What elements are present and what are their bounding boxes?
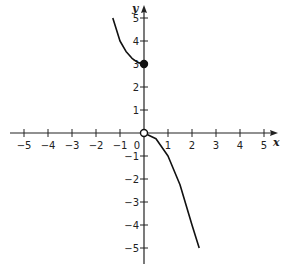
function-graph: −5−4−3−2−1012345−5−4−3−2−112345 x y bbox=[0, 0, 281, 275]
x-tick-label: 0 bbox=[134, 140, 140, 151]
y-axis-arrow-icon bbox=[141, 5, 147, 13]
x-tick-label: 3 bbox=[213, 140, 219, 151]
x-tick-label: −3 bbox=[65, 140, 80, 151]
y-tick-label: −5 bbox=[124, 243, 139, 254]
x-tick-label: 5 bbox=[261, 140, 267, 151]
y-tick-label: −3 bbox=[124, 197, 139, 208]
x-tick-label: −5 bbox=[17, 140, 32, 151]
y-tick-label: 4 bbox=[133, 36, 139, 47]
y-tick-label: 1 bbox=[133, 105, 139, 116]
left-branch-curve bbox=[113, 18, 144, 64]
x-tick-label: −2 bbox=[89, 140, 104, 151]
x-tick-label: −4 bbox=[41, 140, 56, 151]
y-tick-label: 2 bbox=[133, 82, 139, 93]
y-tick-label: −1 bbox=[124, 151, 139, 162]
x-tick-label: 4 bbox=[237, 140, 243, 151]
x-axis-label: x bbox=[272, 136, 280, 149]
x-tick-label: 2 bbox=[189, 140, 195, 151]
x-tick-label: 1 bbox=[165, 140, 171, 151]
open-point bbox=[141, 130, 148, 137]
x-tick-label: −1 bbox=[113, 140, 128, 151]
y-tick-label: −4 bbox=[124, 220, 139, 231]
closed-point bbox=[141, 61, 148, 68]
y-tick-label: −2 bbox=[124, 174, 139, 185]
